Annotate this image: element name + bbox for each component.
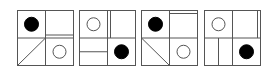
black-dot-icon: [115, 45, 129, 59]
panel-4: [205, 11, 261, 66]
white-circle-icon: [53, 45, 66, 58]
diagram-canvas: [0, 0, 269, 69]
black-dot-icon: [149, 17, 163, 31]
white-circle-icon: [212, 18, 225, 31]
black-dot-icon: [25, 17, 39, 31]
white-circle-icon: [177, 45, 190, 58]
white-circle-icon: [87, 18, 100, 31]
black-dot-icon: [240, 45, 254, 59]
figure-sequence: [0, 0, 269, 69]
diagonal-line: [18, 38, 46, 66]
panel-1: [18, 11, 74, 66]
panel-3: [142, 11, 198, 66]
panel-2: [80, 11, 136, 66]
diagonal-line: [142, 38, 170, 66]
